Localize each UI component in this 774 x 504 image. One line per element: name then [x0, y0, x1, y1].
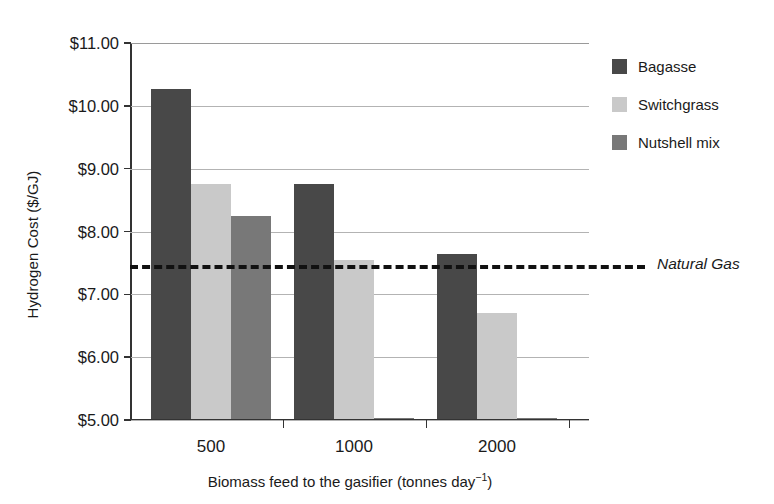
legend-item[interactable]: Nutshell mix: [612, 123, 772, 161]
x-axis-tick-label: 1000: [335, 437, 373, 457]
legend: BagasseSwitchgrassNutshell mix: [612, 47, 772, 161]
plot-area: $11.00$10.00$9.00$8.00$7.00$6.00$5.00: [130, 43, 589, 420]
legend-item[interactable]: Switchgrass: [612, 85, 772, 123]
bar: [294, 184, 334, 418]
legend-swatch-icon: [612, 97, 627, 112]
bar: [477, 313, 517, 418]
bars-layer: [130, 43, 589, 420]
bar: [151, 89, 191, 419]
natural-gas-label: Natural Gas: [657, 255, 740, 273]
x-axis-title-text: Biomass feed to the gasifier (tonnes day: [208, 473, 476, 490]
x-axis-tick: [426, 420, 428, 428]
y-axis-tick-label: $7.00: [78, 285, 119, 304]
legend-swatch-icon: [612, 59, 627, 74]
x-axis-title-exponent: −1: [475, 471, 487, 483]
y-axis-title: Hydrogen Cost ($/GJ): [24, 85, 41, 405]
x-axis-title-close: ): [487, 473, 492, 490]
x-axis-tick: [569, 420, 571, 428]
bar: [191, 184, 231, 418]
x-axis-tick: [283, 420, 285, 428]
bar: [437, 254, 477, 419]
y-axis-tick-label: $5.00: [78, 411, 119, 430]
y-axis-tick-label: $6.00: [78, 348, 119, 367]
y-axis-tick-label: $11.00: [70, 34, 119, 53]
x-axis-title: Biomass feed to the gasifier (tonnes day…: [0, 471, 700, 490]
gridline: [130, 420, 589, 421]
legend-item[interactable]: Bagasse: [612, 47, 772, 85]
x-axis-tick-label: 2000: [478, 437, 516, 457]
x-axis-tick-label: 500: [197, 437, 225, 457]
bar: [231, 216, 271, 419]
legend-swatch-icon: [612, 135, 627, 150]
y-axis-tick-label: $9.00: [78, 159, 119, 178]
legend-item-label: Bagasse: [638, 58, 696, 75]
legend-item-label: Switchgrass: [638, 96, 719, 113]
bar: [334, 260, 374, 419]
y-axis-tick-label: $10.00: [69, 96, 119, 115]
y-axis-tick-label: $8.00: [78, 222, 119, 241]
chart-figure: Hydrogen Cost ($/GJ) $11.00$10.00$9.00$8…: [0, 0, 774, 504]
legend-item-label: Nutshell mix: [638, 134, 720, 151]
natural-gas-reference-line: [130, 265, 645, 269]
